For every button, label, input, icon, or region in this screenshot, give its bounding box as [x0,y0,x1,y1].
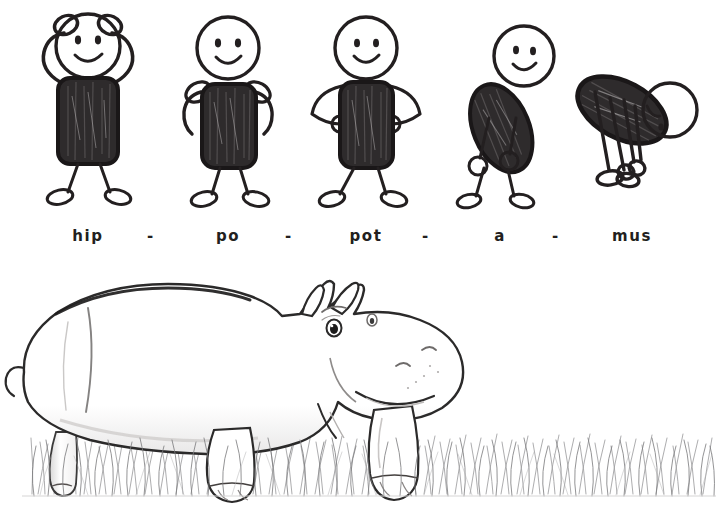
worksheet-page: hip - po - pot - a - mus [0,0,728,522]
hippo-illustration [0,262,728,522]
eyes-icon [75,36,101,45]
separator-1: - [130,224,170,248]
head-icon [494,26,554,86]
left-arm-akimbo [312,86,342,124]
stick-figure-a [432,0,572,222]
separator-3: - [405,224,445,248]
head-icon [197,17,259,79]
right-leg [378,168,386,194]
separator-4: - [535,224,575,248]
smile-icon [216,56,241,63]
right-foot [242,189,270,208]
smile-icon [354,55,379,62]
eyes-icon [513,46,536,55]
syllable-mus: mus [572,224,692,248]
stick-figure-row [0,0,728,222]
hippo-tail [6,367,24,396]
syllable-text-row: hip - po - pot - a - mus [0,224,728,258]
separator-2: - [268,224,308,248]
stick-figure-po [158,0,298,222]
right-foot [380,189,408,208]
right-leg [240,168,248,194]
stick-figure-mus [562,0,702,222]
right-foot [104,187,132,206]
torso-icon [340,82,393,168]
right-foot [509,192,535,210]
left-leg [212,168,220,194]
head-icon [56,14,120,78]
smile-icon [513,63,536,70]
left-foot [46,187,74,206]
eyes-icon [215,39,241,48]
stick-figure-hip [18,0,158,222]
left-leg [68,164,78,192]
torso-icon [566,63,677,158]
smile-icon [75,54,102,61]
eyes-icon [354,39,379,48]
left-foot [190,189,218,208]
torso-icon [58,78,118,164]
eye-icon [658,123,663,130]
left-leg [340,168,354,194]
left-leg [476,168,484,196]
hippo-figure [6,281,463,502]
torso-icon [202,84,256,168]
head-icon [335,17,397,79]
left-foot [318,189,347,209]
left-foot [456,192,482,210]
stick-figure-pot [296,0,436,222]
right-leg [100,164,110,192]
hippo-hind-near-leg [369,406,419,500]
hippo-front-near-leg [207,428,255,502]
